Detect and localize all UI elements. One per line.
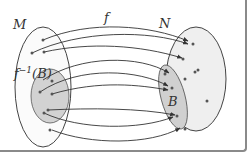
subset-b-label: B	[167, 94, 178, 109]
function-label: f	[103, 10, 111, 25]
set-n-label: N	[158, 16, 171, 31]
set-m-label: M	[12, 17, 27, 32]
function-preimage-diagram: M f N f−1(B) B	[0, 0, 251, 159]
